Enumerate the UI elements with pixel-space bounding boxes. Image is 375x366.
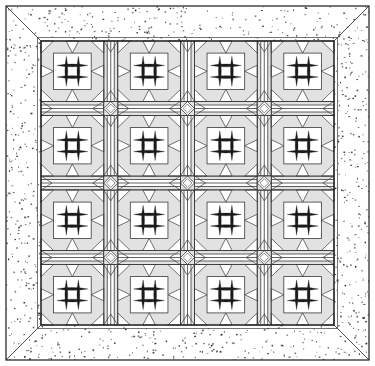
sashing-v-r0c1-stripe-2	[191, 41, 195, 102]
sashing-v-r0c2	[257, 41, 271, 102]
block-r2c2	[195, 190, 258, 251]
block-r0c0	[41, 41, 104, 102]
sashing-h-r2c1-stripe-2	[118, 261, 181, 265]
block-r1c3-center	[284, 128, 322, 164]
block-r0c1	[118, 41, 181, 102]
sashing-v-r1c1-stripe-2	[191, 116, 195, 177]
block-r1c3	[271, 116, 334, 177]
sashing-v-r0c0	[104, 41, 118, 102]
block-r3c1-center	[130, 277, 168, 313]
sashing-v-r1c1-stripe-1	[181, 116, 185, 177]
sashing-v-r0c2-stripe-2	[268, 41, 272, 102]
block-r3c2-center	[207, 277, 245, 313]
sashing-h-r2c3	[271, 251, 334, 265]
sashing-h-r0c3-stripe-2	[271, 112, 334, 116]
sashing-h-r0c2-stripe-1	[195, 102, 258, 106]
sashing-h-r0c3	[271, 102, 334, 116]
sashing-v-r3c2	[257, 265, 271, 326]
cornerstone-r1c0	[104, 176, 118, 190]
cornerstone-r1c2	[257, 176, 271, 190]
block-r3c0	[41, 265, 104, 326]
block-r2c3	[271, 190, 334, 251]
sashing-v-r3c0-stripe-2	[114, 265, 118, 326]
sashing-v-r0c2-stripe-1	[257, 41, 261, 102]
quilt-center-field	[41, 41, 334, 325]
sashing-h-r0c1-stripe-2	[118, 112, 181, 116]
sashing-h-r2c3-stripe-2	[271, 261, 334, 265]
sashing-v-r2c0	[104, 190, 118, 251]
sashing-v-r2c1-stripe-2	[191, 190, 195, 251]
sashing-h-r2c0-stripe-2	[41, 261, 104, 265]
sashing-v-r2c1-stripe-1	[181, 190, 185, 251]
block-r3c0-center	[54, 277, 92, 313]
sashing-h-r1c2	[195, 176, 258, 190]
sashing-h-r0c2	[195, 102, 258, 116]
sashing-h-r2c1-stripe-1	[118, 251, 181, 255]
sashing-v-r3c1-stripe-1	[181, 265, 185, 326]
block-r0c0-center	[54, 53, 92, 89]
sashing-v-r2c2	[257, 190, 271, 251]
sashing-h-r0c2-stripe-2	[195, 112, 258, 116]
cornerstone-r2c1	[181, 251, 195, 265]
sashing-h-r0c0-stripe-1	[41, 102, 104, 106]
sashing-h-r0c0	[41, 102, 104, 116]
sashing-h-r1c2-stripe-2	[195, 187, 258, 191]
block-r1c1-center	[130, 128, 168, 164]
cornerstone-r2c2	[257, 251, 271, 265]
sashing-h-r1c0-stripe-2	[41, 187, 104, 191]
sashing-v-r2c1	[181, 190, 195, 251]
sashing-v-r1c0	[104, 116, 118, 177]
sashing-v-r2c2-stripe-1	[257, 190, 261, 251]
sashing-h-r2c0	[41, 251, 104, 265]
sashing-h-r1c1-stripe-1	[118, 176, 181, 180]
sashing-v-r2c0-stripe-2	[114, 190, 118, 251]
block-r3c3-center	[284, 277, 322, 313]
block-r0c3	[271, 41, 334, 102]
sashing-h-r0c1	[118, 102, 181, 116]
sashing-h-r1c3-stripe-2	[271, 187, 334, 191]
sashing-v-r0c1	[181, 41, 195, 102]
quilt-illustration-canvas: Quilt block layout diagram	[0, 0, 375, 366]
sashing-h-r1c2-stripe-1	[195, 176, 258, 180]
sashing-v-r1c2	[257, 116, 271, 177]
sashing-v-r3c0-stripe-1	[104, 265, 108, 326]
sashing-h-r0c3-stripe-1	[271, 102, 334, 106]
sashing-h-r1c3	[271, 176, 334, 190]
block-r2c2-center	[207, 202, 245, 238]
block-r2c0	[41, 190, 104, 251]
sashing-h-r2c2	[195, 251, 258, 265]
cornerstone-r1c1	[181, 176, 195, 190]
sashing-v-r3c1	[181, 265, 195, 326]
sashing-h-r2c2-stripe-1	[195, 251, 258, 255]
block-r1c1	[118, 116, 181, 177]
sashing-v-r1c2-stripe-2	[268, 116, 272, 177]
block-r2c1-center	[130, 202, 168, 238]
quilt-pattern-svg: Quilt block layout diagram	[0, 0, 375, 366]
block-r0c2	[195, 41, 258, 102]
sashing-h-r2c2-stripe-2	[195, 261, 258, 265]
block-r1c0	[41, 116, 104, 177]
block-r2c0-center	[54, 202, 92, 238]
sashing-h-r2c3-stripe-1	[271, 251, 334, 255]
block-r0c2-center	[207, 53, 245, 89]
sashing-v-r2c0-stripe-1	[104, 190, 108, 251]
sashing-v-r2c2-stripe-2	[268, 190, 272, 251]
block-r0c3-center	[284, 53, 322, 89]
sashing-h-r1c0-stripe-1	[41, 176, 104, 180]
sashing-h-r2c0-stripe-1	[41, 251, 104, 255]
sashing-v-r1c2-stripe-1	[257, 116, 261, 177]
sashing-v-r3c0	[104, 265, 118, 326]
cornerstone-r0c1	[181, 102, 195, 116]
cornerstone-r0c2	[257, 102, 271, 116]
sashing-h-r1c1-stripe-2	[118, 187, 181, 191]
sashing-h-r2c1	[118, 251, 181, 265]
sashing-h-r1c1	[118, 176, 181, 190]
cornerstone-r2c0	[104, 251, 118, 265]
sashing-v-r0c0-stripe-1	[104, 41, 108, 102]
sashing-v-r1c0-stripe-1	[104, 116, 108, 177]
sashing-v-r1c0-stripe-2	[114, 116, 118, 177]
block-r2c3-center	[284, 202, 322, 238]
block-r0c1-center	[130, 53, 168, 89]
sashing-v-r3c2-stripe-2	[268, 265, 272, 326]
block-r3c2	[195, 265, 258, 326]
